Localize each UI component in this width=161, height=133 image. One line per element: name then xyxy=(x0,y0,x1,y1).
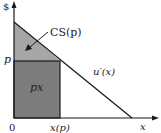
origin-label: 0 xyxy=(9,122,15,133)
price-label: p xyxy=(4,53,11,66)
x-axis-label: x xyxy=(140,121,146,132)
surplus-label: CS(p) xyxy=(50,26,82,39)
curve-label: u′(x) xyxy=(93,66,115,77)
consumer-surplus-diagram: $ p CS(p) u′(x) px 0 x(p) x xyxy=(0,0,161,133)
quantity-label: x(p) xyxy=(50,122,70,133)
y-axis-arrow-icon xyxy=(12,1,17,8)
x-axis-arrow-icon xyxy=(152,116,159,121)
expenditure-label: px xyxy=(30,81,44,94)
y-axis-label: $ xyxy=(3,1,9,12)
